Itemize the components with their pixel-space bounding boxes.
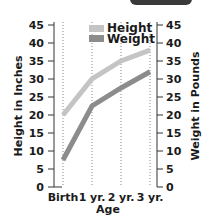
right-tick-label: 10 bbox=[166, 145, 182, 158]
right-tick-label: 20 bbox=[166, 109, 182, 122]
data-series-lines bbox=[63, 50, 150, 160]
x-axis-title: Age bbox=[96, 203, 120, 216]
legend: Height Weight bbox=[89, 21, 155, 46]
right-tick-label: 0 bbox=[166, 181, 174, 194]
right-tick-label: 30 bbox=[166, 73, 182, 86]
right-y-axis: 051015202530354045 bbox=[157, 19, 182, 194]
left-tick-label: 30 bbox=[29, 73, 45, 86]
legend-swatch-weight bbox=[89, 35, 104, 42]
series-line-weight bbox=[63, 72, 150, 160]
right-tick-label: 15 bbox=[166, 127, 181, 140]
left-tick-label: 25 bbox=[29, 91, 44, 104]
legend-swatch-height bbox=[89, 25, 104, 32]
left-tick-label: 10 bbox=[29, 145, 45, 158]
right-tick-label: 35 bbox=[166, 55, 181, 68]
x-tick-label: Birth bbox=[48, 191, 79, 204]
series-line-height bbox=[63, 50, 150, 115]
left-tick-label: 35 bbox=[29, 55, 44, 68]
left-tick-label: 0 bbox=[36, 181, 44, 194]
left-tick-label: 20 bbox=[29, 109, 45, 122]
left-tick-label: 15 bbox=[29, 127, 44, 140]
right-tick-label: 40 bbox=[166, 37, 182, 50]
x-tick-label: 3 yr. bbox=[137, 191, 164, 204]
right-tick-label: 5 bbox=[166, 163, 174, 176]
left-axis-title: Height in Inches bbox=[12, 55, 25, 156]
left-y-axis: 051015202530354045 bbox=[29, 19, 62, 194]
growth-line-chart: 051015202530354045 051015202530354045 Bi… bbox=[0, 0, 211, 223]
left-tick-label: 40 bbox=[29, 37, 45, 50]
right-axis-title: Weight in Pounds bbox=[189, 51, 202, 160]
right-tick-label: 25 bbox=[166, 91, 181, 104]
legend-label-weight: Weight bbox=[107, 32, 155, 46]
right-tick-label: 45 bbox=[166, 19, 181, 32]
left-tick-label: 5 bbox=[36, 163, 44, 176]
left-tick-label: 45 bbox=[29, 19, 44, 32]
vertical-gridlines bbox=[63, 22, 150, 187]
